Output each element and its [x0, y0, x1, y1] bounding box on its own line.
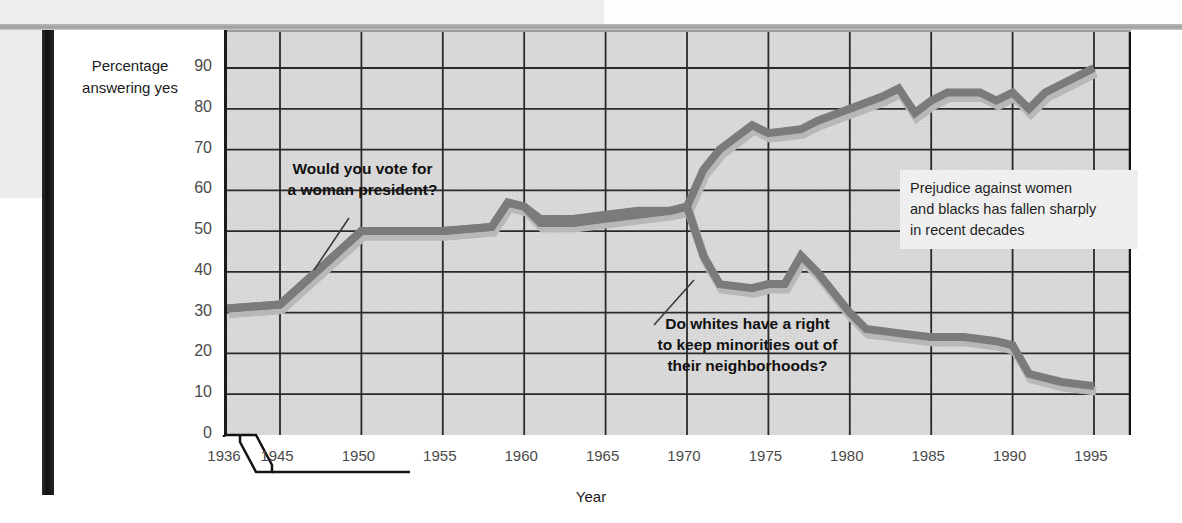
x-axis-tick-1995: 1995	[1056, 447, 1126, 464]
x-axis-tick-1970: 1970	[649, 447, 719, 464]
x-axis-tick-1960: 1960	[486, 447, 556, 464]
y-axis-tick-90: 90	[172, 57, 212, 75]
y-axis-title-line2: answering yes	[60, 77, 200, 99]
callout-line2: and blacks has fallen sharply	[910, 199, 1128, 220]
y-axis-tick-30: 30	[172, 302, 212, 320]
page-canvas: Percentage answering yes 01020304050607	[0, 0, 1182, 523]
y-axis-tick-80: 80	[172, 98, 212, 116]
annotation-whites-line2: to keep minorities out of	[610, 334, 885, 355]
annotation-whites-line3: their neighborhoods?	[610, 355, 885, 376]
x-axis-tick-1955: 1955	[405, 447, 475, 464]
x-axis-tick-1985: 1985	[893, 447, 963, 464]
x-axis-title: Year	[0, 488, 1182, 505]
annotation-women-line1: Would you vote for	[255, 158, 470, 179]
x-axis-tick-1975: 1975	[730, 447, 800, 464]
page-top-band-right	[604, 0, 1182, 24]
y-axis-tick-10: 10	[172, 383, 212, 401]
page-spine-bar	[42, 30, 54, 495]
callout-line3: in recent decades	[910, 220, 1128, 241]
y-axis-tick-0: 0	[172, 424, 212, 442]
x-axis-tick-1950: 1950	[323, 447, 393, 464]
x-axis-tick-1990: 1990	[975, 447, 1045, 464]
y-axis-tick-50: 50	[172, 220, 212, 238]
annotation-women-president: Would you vote for a woman president?	[255, 158, 470, 200]
callout-line1: Prejudice against women	[910, 178, 1128, 199]
y-axis-tick-60: 60	[172, 179, 212, 197]
y-axis-tick-40: 40	[172, 261, 212, 279]
page-top-band-left	[0, 0, 604, 24]
annotation-whites-line1: Do whites have a right	[610, 313, 885, 334]
annotation-women-line2: a woman president?	[255, 179, 470, 200]
annotation-whites-neighborhoods: Do whites have a right to keep minoritie…	[610, 313, 885, 376]
x-axis-tick-1965: 1965	[568, 447, 638, 464]
y-axis-tick-70: 70	[172, 139, 212, 157]
page-left-block	[0, 30, 42, 198]
callout-box: Prejudice against women and blacks has f…	[900, 170, 1138, 249]
y-axis-tick-20: 20	[172, 342, 212, 360]
x-axis-tick-1980: 1980	[812, 447, 882, 464]
x-axis-tick-1945: 1945	[242, 447, 312, 464]
